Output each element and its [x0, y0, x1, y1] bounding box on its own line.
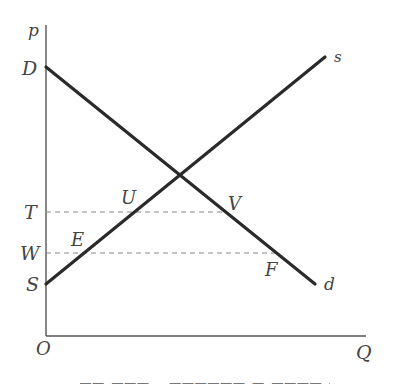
origin-label: O: [36, 338, 51, 359]
x-axis-label: Q: [356, 341, 372, 363]
point-label-e: E: [70, 229, 84, 250]
demand-end-label: d: [324, 274, 335, 294]
point-label-v: V: [228, 193, 243, 214]
supply-end-label: s: [334, 48, 342, 66]
price-label-w: W: [20, 242, 41, 264]
y-axis-label: p: [28, 20, 39, 40]
figure-caption-cutoff: ▔▔ ▔▔▔ ▔▔▔▔▔▔ ▔ ▔▔▔▔ ▔▔: [80, 383, 330, 388]
point-label-u: U: [121, 187, 137, 208]
supply-curve: [46, 57, 325, 284]
supply-start-label: S: [26, 273, 39, 295]
price-label-t: T: [24, 201, 38, 223]
point-label-f: F: [264, 259, 279, 280]
supply-demand-diagram: p Q O D d S s T W U V E F: [0, 0, 395, 388]
demand-start-label: D: [21, 57, 37, 79]
